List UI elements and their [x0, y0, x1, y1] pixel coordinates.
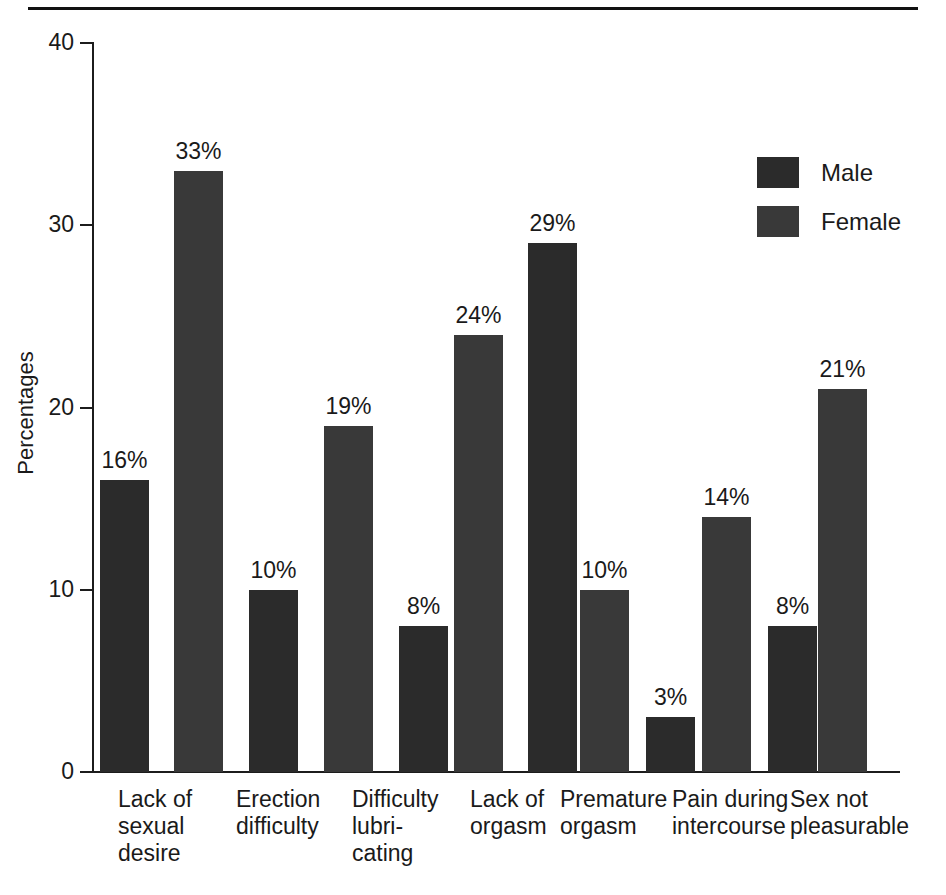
x-axis-category-label: Pain duringintercourse — [672, 786, 788, 840]
x-axis-category-label-line: Lack of — [470, 786, 547, 813]
x-axis-category-label: Lack oforgasm — [470, 786, 547, 840]
y-axis-tick-mark — [80, 42, 94, 44]
x-axis-category-label-line: Erection — [236, 786, 320, 813]
bar-male — [646, 717, 695, 772]
y-axis-tick-label: 0 — [14, 760, 74, 783]
legend-swatch-icon — [757, 206, 799, 237]
bar-value-label: 16% — [80, 449, 170, 472]
x-axis-category-label-line: Premature — [560, 786, 667, 813]
bar-female — [174, 171, 223, 772]
bar-female — [580, 590, 629, 772]
bar-value-label: 10% — [560, 559, 650, 582]
y-axis-tick-mark — [80, 224, 94, 226]
y-axis-title: Percentages — [13, 333, 39, 493]
bar-female — [818, 389, 867, 772]
bar-value-label: 10% — [229, 559, 319, 582]
bar-value-label: 14% — [682, 486, 772, 509]
x-axis-category-label-line: cating — [352, 840, 439, 867]
x-axis-category-label-line: Difficulty — [352, 786, 439, 813]
legend-item-male: Male — [757, 157, 932, 188]
bar-female — [454, 335, 503, 772]
bar-chart-figure: 010203040 Percentages 16%33%10%19%8%24%2… — [0, 0, 946, 895]
x-axis-category-label: Prematureorgasm — [560, 786, 667, 840]
x-axis-category-label-line: lubri- — [352, 813, 439, 840]
y-axis-tick-label: 30 — [14, 213, 74, 236]
bar-value-label: 29% — [508, 212, 598, 235]
bar-male — [528, 243, 577, 772]
y-axis-tick-label: 10 — [14, 578, 74, 601]
y-axis-tick-label: 40 — [14, 31, 74, 54]
chart-legend: MaleFemale — [757, 157, 932, 255]
legend-item-female: Female — [757, 206, 932, 237]
x-axis-category-label: Erectiondifficulty — [236, 786, 320, 840]
x-axis-category-label-line: Pain during — [672, 786, 788, 813]
x-axis-category-label-line: difficulty — [236, 813, 320, 840]
x-axis-category-label-line: Sex not — [790, 786, 909, 813]
bar-female — [324, 426, 373, 772]
x-axis-category-label-line: sexual — [118, 813, 192, 840]
bar-male — [399, 626, 448, 772]
bar-value-label: 33% — [154, 140, 244, 163]
bar-value-label: 21% — [798, 358, 888, 381]
x-axis-category-label-line: Lack of — [118, 786, 192, 813]
x-axis-category-label: Difficultylubri-cating — [352, 786, 439, 867]
x-axis-category-label: Sex notpleasurable — [790, 786, 909, 840]
legend-swatch-icon — [757, 157, 799, 188]
bar-male — [100, 480, 149, 772]
y-axis-tick-mark — [80, 771, 94, 773]
legend-item-label: Male — [821, 161, 873, 185]
bar-male — [768, 626, 817, 772]
x-axis-category-label-line: intercourse — [672, 813, 788, 840]
bar-value-label: 24% — [434, 304, 524, 327]
x-axis-category-label-line: orgasm — [470, 813, 547, 840]
legend-item-label: Female — [821, 210, 901, 234]
bar-value-label: 19% — [304, 395, 394, 418]
x-axis-category-label-line: orgasm — [560, 813, 667, 840]
x-axis-category-label-line: desire — [118, 840, 192, 867]
y-axis-tick-mark — [80, 589, 94, 591]
bar-female — [702, 517, 751, 772]
y-axis-tick-mark — [80, 407, 94, 409]
bar-male — [249, 590, 298, 772]
x-axis-category-label: Lack ofsexualdesire — [118, 786, 192, 867]
x-axis-category-label-line: pleasurable — [790, 813, 909, 840]
